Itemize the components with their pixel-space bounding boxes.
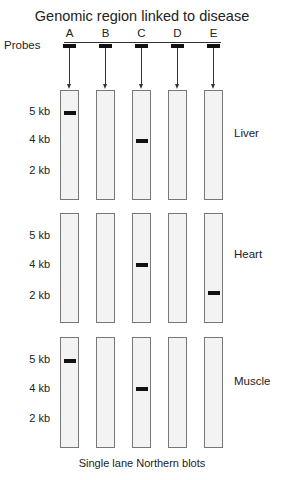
blot-lane-heart-b	[96, 213, 115, 323]
diagram-title: Genomic region linked to disease	[0, 8, 284, 24]
size-marker-label: 2 kb	[20, 289, 50, 301]
blot-lane-liver-b	[96, 90, 115, 200]
blot-lane-liver-e	[204, 90, 223, 200]
arrow-down-icon	[103, 84, 107, 89]
rna-band	[136, 387, 148, 391]
blot-lane-muscle-b	[96, 337, 115, 448]
tissue-label-heart: Heart	[234, 248, 262, 260]
size-marker-label: 2 kb	[20, 412, 50, 424]
blot-lane-heart-e	[204, 213, 223, 323]
blot-lane-liver-d	[168, 90, 187, 200]
rna-band	[208, 291, 220, 295]
blot-lane-liver-a	[60, 90, 79, 200]
tissue-label-muscle: Muscle	[234, 375, 270, 387]
size-marker-label: 4 kb	[20, 382, 50, 394]
arrow-down-icon	[211, 84, 215, 89]
size-marker-label: 5 kb	[20, 353, 50, 365]
probe-arrow-line	[213, 48, 214, 85]
blot-lane-muscle-a	[60, 337, 79, 448]
genomic-region-line	[64, 42, 221, 43]
probe-letter-c: C	[132, 27, 152, 39]
probe-arrow-line	[105, 48, 106, 85]
blot-lane-heart-c	[132, 213, 151, 323]
probe-letter-b: B	[96, 27, 116, 39]
arrow-down-icon	[139, 84, 143, 89]
rna-band	[136, 263, 148, 267]
size-marker-label: 4 kb	[20, 133, 50, 145]
blot-lane-muscle-d	[168, 337, 187, 448]
probe-arrow-line	[69, 48, 70, 85]
blot-lane-muscle-e	[204, 337, 223, 448]
probe-arrow-line	[177, 48, 178, 85]
size-marker-label: 5 kb	[20, 105, 50, 117]
blot-lane-heart-d	[168, 213, 187, 323]
tissue-label-liver: Liver	[234, 127, 259, 139]
probe-letter-e: E	[204, 27, 224, 39]
blot-lane-muscle-c	[132, 337, 151, 448]
probes-label: Probes	[4, 39, 40, 51]
rna-band	[64, 111, 76, 115]
size-marker-label: 2 kb	[20, 164, 50, 176]
blot-lane-liver-c	[132, 90, 151, 200]
probe-letter-d: D	[168, 27, 188, 39]
probe-arrow-line	[141, 48, 142, 85]
arrow-down-icon	[175, 84, 179, 89]
size-marker-label: 5 kb	[20, 229, 50, 241]
rna-band	[136, 139, 148, 143]
size-marker-label: 4 kb	[20, 258, 50, 270]
blot-lane-heart-a	[60, 213, 79, 323]
probe-letter-a: A	[60, 27, 80, 39]
footer-caption: Single lane Northern blots	[0, 457, 284, 469]
rna-band	[64, 359, 76, 363]
arrow-down-icon	[67, 84, 71, 89]
